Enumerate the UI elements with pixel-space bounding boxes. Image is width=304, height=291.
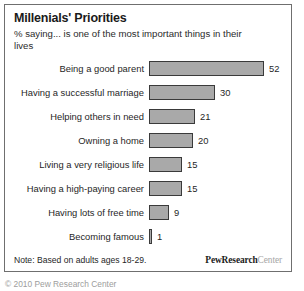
bar-area: 15	[149, 157, 291, 172]
bar-category-label: Owning a home	[5, 135, 149, 146]
bar-value-label: 20	[193, 135, 208, 146]
chart-figure: Millenials' Priorities % saying... is on…	[4, 4, 292, 272]
bar-area: 52	[149, 61, 291, 76]
chart-note: Note: Based on adults ages 18-29.	[14, 255, 146, 265]
bar-row: Having lots of free time9	[5, 200, 291, 224]
chart-footer: Note: Based on adults ages 18-29. PewRes…	[5, 255, 291, 265]
chart-title: Millenials' Priorities	[14, 11, 282, 25]
bar-value-label: 15	[182, 183, 197, 194]
brand-name-bold: PewResearch	[205, 255, 257, 265]
copyright-line: © 2010 Pew Research Center	[5, 279, 116, 289]
bar-area: 20	[149, 133, 291, 148]
bar-area: 15	[149, 181, 291, 196]
bar-value-label: 15	[182, 159, 197, 170]
bar-category-label: Having lots of free time	[5, 207, 149, 218]
bar	[149, 181, 182, 196]
bar	[149, 205, 169, 220]
bar	[149, 109, 195, 124]
bar-category-label: Becoming famous	[5, 231, 149, 242]
bar-area: 30	[149, 85, 291, 100]
bar-row: Being a good parent52	[5, 56, 291, 80]
bar-area: 9	[149, 205, 291, 220]
bar-category-label: Helping others in need	[5, 111, 149, 122]
bar-value-label: 9	[169, 207, 179, 218]
bar-area: 1	[149, 229, 291, 244]
bar-area: 21	[149, 109, 291, 124]
bar-category-label: Having a high-paying career	[5, 183, 149, 194]
bar-row: Living a very religious life15	[5, 152, 291, 176]
bar-category-label: Living a very religious life	[5, 159, 149, 170]
chart-subtitle: % saying... is one of the most important…	[14, 28, 246, 51]
brand-name-light: Center	[258, 255, 282, 265]
bar-value-label: 52	[264, 63, 279, 74]
bar-row: Owning a home20	[5, 128, 291, 152]
bar-row: Helping others in need21	[5, 104, 291, 128]
bar-value-label: 21	[195, 111, 210, 122]
bar-chart-plot: Being a good parent52Having a successful…	[5, 56, 291, 248]
bar-row: Having a successful marriage30	[5, 80, 291, 104]
bar	[149, 157, 182, 172]
bar-row: Having a high-paying career15	[5, 176, 291, 200]
chart-header: Millenials' Priorities % saying... is on…	[5, 5, 291, 51]
bar-row: Becoming famous1	[5, 224, 291, 248]
bar	[149, 85, 215, 100]
bar-category-label: Having a successful marriage	[5, 87, 149, 98]
bar	[149, 133, 193, 148]
bar-category-label: Being a good parent	[5, 63, 149, 74]
bar	[149, 61, 264, 76]
pew-research-center-logo: PewResearchCenter	[205, 255, 282, 265]
bar-value-label: 30	[215, 87, 230, 98]
bar-value-label: 1	[152, 231, 162, 242]
